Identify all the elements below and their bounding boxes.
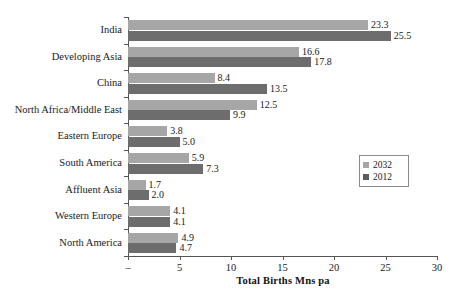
x-axis-tick-label: 15: [277, 262, 288, 273]
bar[interactable]: [128, 137, 180, 147]
bar[interactable]: [128, 243, 176, 253]
x-axis-tick: [128, 256, 129, 260]
bar[interactable]: [128, 190, 149, 200]
y-axis-category-label: Western Europe: [55, 210, 122, 222]
chart-legend: 2032 2012: [359, 155, 409, 187]
x-axis-tick: [386, 256, 387, 260]
bar-group-2012: 9.9: [128, 110, 245, 120]
bar[interactable]: [128, 31, 391, 41]
x-axis-tick: [283, 256, 284, 260]
bar-value-label: 1.7: [149, 180, 162, 190]
bar-value-label: 12.5: [260, 100, 278, 110]
category-row: Eastern Europe3.85.0: [128, 123, 437, 150]
bar-value-label: 3.8: [170, 126, 183, 136]
y-axis-tick: [124, 17, 128, 18]
y-axis-tick: [124, 203, 128, 204]
bar-group-2032: 4.1: [128, 206, 186, 216]
bar-group-2012: 4.7: [128, 243, 192, 253]
y-axis-category-label: North America: [59, 237, 122, 249]
y-axis-category-label: Eastern Europe: [58, 131, 122, 143]
bar-value-label: 23.3: [371, 20, 389, 30]
bar-group-2012: 2.0: [128, 190, 164, 200]
bar-value-label: 5.0: [183, 137, 196, 147]
bar[interactable]: [128, 164, 203, 174]
y-axis-tick: [124, 123, 128, 124]
bar-group-2032: 1.7: [128, 180, 161, 190]
y-axis-category-label: India: [100, 24, 122, 36]
bar[interactable]: [128, 20, 368, 30]
bar[interactable]: [128, 47, 299, 57]
x-axis-tick-label: 20: [329, 262, 340, 273]
bar-group-2012: 17.8: [128, 57, 332, 67]
bar-group-2032: 12.5: [128, 100, 277, 110]
bar[interactable]: [128, 180, 146, 190]
bar-group-2012: 13.5: [128, 84, 288, 94]
category-row: India23.325.5: [128, 17, 437, 44]
bar-value-label: 13.5: [270, 84, 288, 94]
category-row: Western Europe4.14.1: [128, 203, 437, 230]
x-axis-tick-label: –: [125, 262, 130, 273]
bar-group-2012: 25.5: [128, 31, 411, 41]
x-axis-tick-label: 30: [432, 262, 443, 273]
plot-area: India23.325.5Developing Asia16.617.8Chin…: [128, 17, 437, 256]
bar-value-label: 16.6: [302, 47, 320, 57]
bar[interactable]: [128, 110, 230, 120]
y-axis-tick: [124, 176, 128, 177]
y-axis-tick: [124, 70, 128, 71]
bar[interactable]: [128, 233, 178, 243]
legend-label-2032: 2032: [373, 159, 392, 171]
y-axis-tick: [124, 97, 128, 98]
bar[interactable]: [128, 100, 257, 110]
x-axis-tick: [334, 256, 335, 260]
bar-group-2032: 23.3: [128, 20, 388, 30]
legend-item-2032[interactable]: 2032: [363, 159, 404, 171]
bar-group-2012: 7.3: [128, 164, 219, 174]
bar-group-2012: 4.1: [128, 217, 186, 227]
category-row: North America4.94.7: [128, 229, 437, 256]
bar[interactable]: [128, 126, 167, 136]
bar-group-2012: 5.0: [128, 137, 195, 147]
bar-value-label: 2.0: [152, 190, 165, 200]
category-row: North Africa/Middle East12.59.9: [128, 97, 437, 124]
y-axis-tick: [124, 44, 128, 45]
bar-group-2032: 16.6: [128, 47, 319, 57]
y-axis-category-label: Affluent Asia: [65, 184, 122, 196]
legend-swatch-2012-icon: [363, 174, 369, 180]
bar-chart: India23.325.5Developing Asia16.617.8Chin…: [0, 0, 455, 295]
x-axis-tick: [231, 256, 232, 260]
category-row: China8.413.5: [128, 70, 437, 97]
x-axis-tick: [437, 256, 438, 260]
legend-swatch-2032-icon: [363, 162, 369, 168]
bar-value-label: 5.9: [192, 153, 205, 163]
category-row: Developing Asia16.617.8: [128, 44, 437, 71]
y-axis-category-label: China: [97, 78, 122, 90]
bar-value-label: 4.7: [179, 243, 192, 253]
bar[interactable]: [128, 206, 170, 216]
bar-value-label: 4.1: [173, 206, 186, 216]
bar-value-label: 8.4: [218, 73, 231, 83]
x-axis-tick: [180, 256, 181, 260]
bar-group-2032: 3.8: [128, 126, 183, 136]
x-axis-tick-label: 10: [226, 262, 237, 273]
bar[interactable]: [128, 84, 267, 94]
y-axis-category-label: South America: [59, 157, 122, 169]
y-axis-tick: [124, 150, 128, 151]
bar-value-label: 4.1: [173, 217, 186, 227]
bar-group-2032: 8.4: [128, 73, 230, 83]
bar-value-label: 7.3: [206, 164, 219, 174]
bar-value-label: 9.9: [233, 110, 246, 120]
x-axis-title: Total Births Mns pa: [128, 275, 438, 286]
bar-value-label: 17.8: [314, 57, 332, 67]
bar-value-label: 25.5: [394, 31, 412, 41]
legend-label-2012: 2012: [373, 171, 392, 183]
bar[interactable]: [128, 57, 311, 67]
bar-group-2032: 4.9: [128, 233, 194, 243]
x-axis-tick-label: 25: [380, 262, 391, 273]
bar[interactable]: [128, 73, 215, 83]
y-axis-category-label: Developing Asia: [52, 51, 122, 63]
x-axis-tick-label: 5: [177, 262, 182, 273]
bar-value-label: 4.9: [181, 233, 194, 243]
bar[interactable]: [128, 153, 189, 163]
legend-item-2012[interactable]: 2012: [363, 171, 404, 183]
bar[interactable]: [128, 217, 170, 227]
